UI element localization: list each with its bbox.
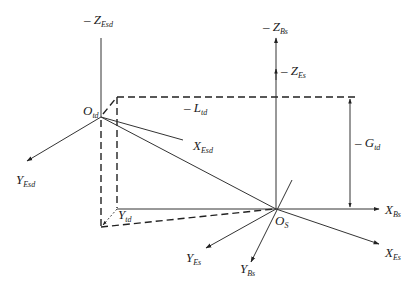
y-esd-label: YEsd: [16, 172, 36, 189]
svg-text:XBs: XBs: [384, 202, 401, 219]
svg-text:YEsd: YEsd: [16, 172, 36, 189]
y-td-label: Ytd: [118, 207, 132, 224]
y-td-axis: [103, 209, 117, 225]
svg-text:OS: OS: [275, 213, 288, 230]
svg-text:XEsd: XEsd: [192, 138, 214, 155]
x-es-axis: [276, 209, 379, 244]
svg-text:– ZEs: – ZEs: [280, 63, 306, 80]
dashed-diagonal-top: [103, 97, 117, 114]
neg-z-esd-label: – ZEsd: [83, 12, 114, 29]
coordinate-frames-diagram: – ZEsd Otd YEsd XEsd – Ltd – ZBs – ZEs –…: [0, 0, 409, 284]
svg-text:Otd: Otd: [83, 103, 100, 120]
origin-td-label: Otd: [83, 103, 100, 120]
dashed-construction: [101, 97, 355, 227]
svg-text:– Gtd: – Gtd: [354, 135, 381, 152]
y-bs-label: YBs: [240, 261, 255, 278]
x-esd-label: XEsd: [192, 138, 214, 155]
x-esd-axis: [101, 117, 183, 140]
svg-text:XEs: XEs: [384, 245, 401, 262]
svg-text:– ZBs: – ZBs: [262, 19, 288, 36]
svg-text:– ZEsd: – ZEsd: [83, 12, 114, 29]
otd-to-os-line: [101, 117, 276, 209]
neg-z-es-label: – ZEs: [280, 63, 306, 80]
neg-z-bs-label: – ZBs: [262, 19, 288, 36]
origin-s-label: OS: [275, 213, 288, 230]
svg-text:YBs: YBs: [240, 261, 255, 278]
svg-text:Ytd: Ytd: [118, 207, 132, 224]
neg-g-td-label: – Gtd: [354, 135, 381, 152]
svg-text:YEs: YEs: [186, 250, 201, 267]
svg-text:– Ltd: – Ltd: [183, 100, 208, 117]
x-bs-label: XBs: [384, 202, 401, 219]
y-es-label: YEs: [186, 250, 201, 267]
y-esd-axis: [27, 117, 101, 161]
neg-l-td-label: – Ltd: [183, 100, 208, 117]
x-es-label: XEs: [384, 245, 401, 262]
